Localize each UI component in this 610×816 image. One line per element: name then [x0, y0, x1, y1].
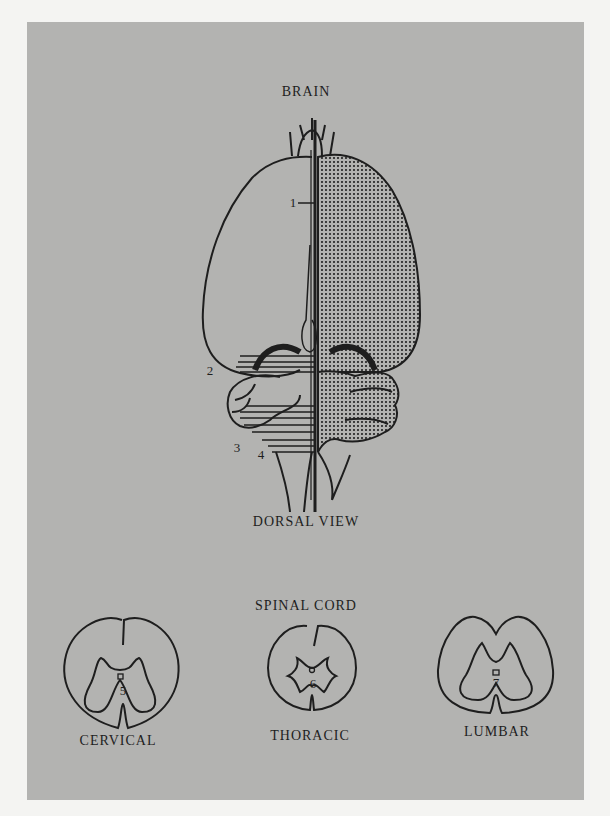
marker-3: 3: [234, 440, 241, 456]
brain-title: BRAIN: [282, 84, 331, 100]
thoracic-section: [268, 626, 356, 710]
marker-7: 7: [493, 675, 500, 691]
dorsal-view-label: DORSAL VIEW: [253, 514, 359, 530]
marker-6: 6: [310, 676, 317, 692]
marker-5: 5: [120, 683, 127, 699]
marker-4: 4: [258, 447, 265, 463]
lumbar-section: [438, 617, 553, 713]
marker-2: 2: [207, 363, 214, 379]
cervical-section: [64, 618, 178, 728]
spinal-cord-title: SPINAL CORD: [255, 598, 357, 614]
anatomy-drawing: [0, 0, 610, 816]
lumbar-label: LUMBAR: [464, 724, 530, 740]
cervical-label: CERVICAL: [80, 733, 157, 749]
marker-1: 1: [290, 195, 297, 211]
thoracic-label: THORACIC: [270, 728, 350, 744]
